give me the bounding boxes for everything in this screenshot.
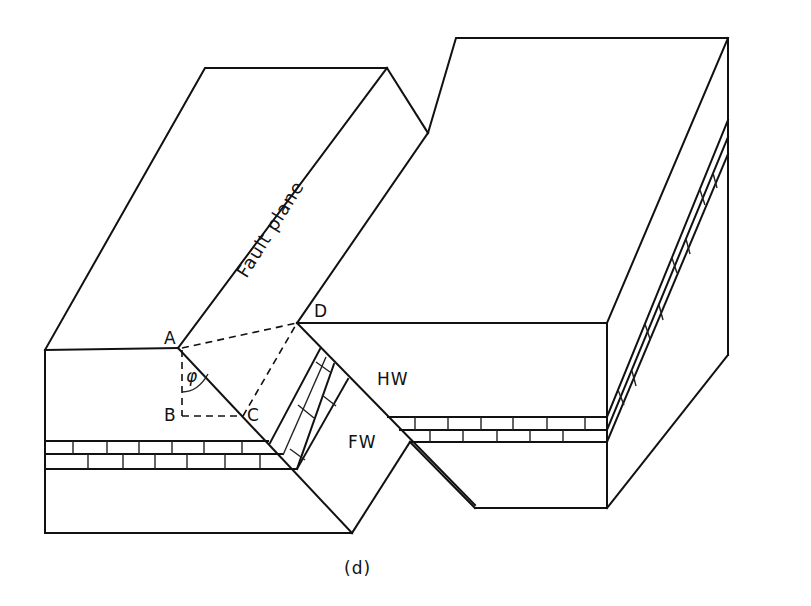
angle-phi-label: φ [186, 366, 198, 386]
footwall-slab [270, 323, 475, 533]
left-block [45, 68, 428, 533]
figure-caption: (d) [344, 558, 371, 578]
fault-block-diagram [0, 0, 811, 606]
hanging-wall-label: HW [377, 369, 409, 389]
point-a-label: A [164, 328, 177, 348]
point-d-label: D [314, 301, 328, 321]
point-b-label: B [164, 405, 177, 425]
point-c-label: C [247, 405, 260, 425]
limestone-bricks-side [618, 173, 717, 405]
footwall-label: FW [348, 432, 377, 452]
